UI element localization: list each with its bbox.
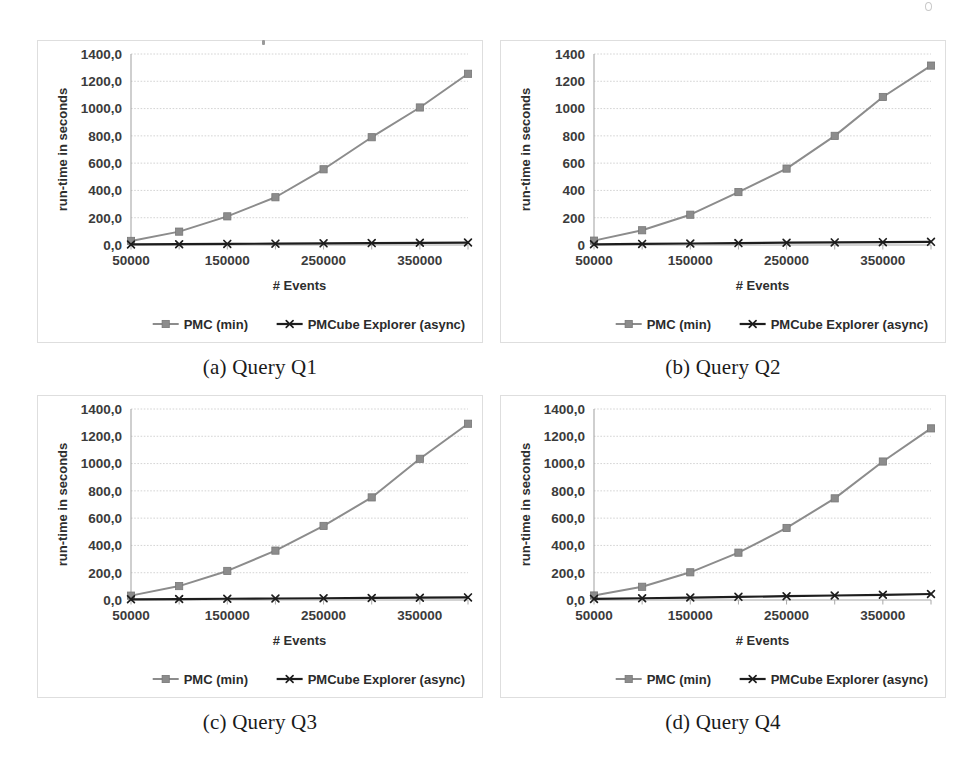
y-axis-tick-label: 800,0 <box>88 129 122 144</box>
chart-panel-b: 0200400600800100012001400500001500002500… <box>500 40 946 343</box>
series-marker-square <box>879 93 886 100</box>
figure-panel-b: 0200400600800100012001400500001500002500… <box>500 40 946 380</box>
y-axis-tick-label: 600,0 <box>88 511 122 526</box>
y-axis-tick-label: 1400,0 <box>544 402 585 417</box>
subcaption-b: (b) Query Q2 <box>500 355 946 380</box>
figure-grid: 0,0200,0400,0600,0800,01000,01200,01400,… <box>0 0 966 772</box>
scan-artifact-top-right <box>925 2 932 11</box>
series-marker-square <box>927 62 934 69</box>
series-line-pmc <box>131 74 468 241</box>
x-axis-title: # Events <box>273 278 326 293</box>
y-axis-tick-label: 1400 <box>555 47 585 62</box>
legend-label: PMC (min) <box>184 317 248 332</box>
series-marker-square <box>176 228 183 235</box>
figure-panel-a: 0,0200,0400,0600,0800,01000,01200,01400,… <box>37 40 483 380</box>
legend-label: PMCube Explorer (async) <box>308 317 466 332</box>
legend-item-pmcube: PMCube Explorer (async) <box>277 317 466 332</box>
scan-artifact-chart-a <box>262 40 265 45</box>
x-axis-tick-label: 150000 <box>205 608 250 623</box>
series-marker-square <box>368 494 375 501</box>
y-axis-tick-label: 0,0 <box>566 593 585 608</box>
series-marker-square <box>687 569 694 576</box>
x-axis-tick-label: 350000 <box>860 253 905 268</box>
figure-panel-c: 0,0200,0400,0600,0800,01000,01200,01400,… <box>37 395 483 735</box>
x-axis-tick-label: 150000 <box>668 608 713 623</box>
series-marker-square <box>272 547 279 554</box>
y-axis-title: run-time in seconds <box>55 443 70 567</box>
y-axis-tick-label: 1000,0 <box>81 101 122 116</box>
series-line-pmc <box>594 428 931 595</box>
y-axis-tick-label: 200,0 <box>551 566 585 581</box>
legend-item-pmc: PMC (min) <box>616 672 711 687</box>
x-axis-tick-label: 250000 <box>301 253 346 268</box>
y-axis-tick-label: 400 <box>562 183 585 198</box>
series-marker-square <box>416 455 423 462</box>
series-marker-square <box>831 495 838 502</box>
legend-marker-square <box>625 320 632 327</box>
legend-label: PMCube Explorer (async) <box>771 672 929 687</box>
y-axis-title: run-time in seconds <box>518 88 533 212</box>
x-axis-tick-label: 250000 <box>764 608 809 623</box>
y-axis-tick-label: 1000,0 <box>81 456 122 471</box>
series-line-pmc <box>131 424 468 596</box>
y-axis-tick-label: 1000 <box>555 101 585 116</box>
legend-item-pmc: PMC (min) <box>153 317 248 332</box>
series-marker-square <box>176 582 183 589</box>
series-marker-square <box>368 134 375 141</box>
y-axis-tick-label: 600 <box>562 156 585 171</box>
legend-label: PMC (min) <box>647 672 711 687</box>
x-axis-tick-label: 250000 <box>764 253 809 268</box>
y-axis-tick-label: 400,0 <box>551 538 585 553</box>
y-axis-tick-label: 400,0 <box>88 183 122 198</box>
series-marker-square <box>464 420 471 427</box>
y-axis-tick-label: 1400,0 <box>81 402 122 417</box>
figure-panel-d: 0,0200,0400,0600,0800,01000,01200,01400,… <box>500 395 946 735</box>
legend-item-pmc: PMC (min) <box>153 672 248 687</box>
chart-b-svg: 0200400600800100012001400500001500002500… <box>501 41 945 342</box>
series-marker-square <box>735 549 742 556</box>
x-axis-title: # Events <box>736 278 789 293</box>
series-marker-square <box>224 213 231 220</box>
x-axis-tick-label: 350000 <box>397 608 442 623</box>
y-axis-tick-label: 200,0 <box>88 211 122 226</box>
legend-item-pmc: PMC (min) <box>616 317 711 332</box>
series-marker-square <box>879 458 886 465</box>
legend-label: PMC (min) <box>184 672 248 687</box>
subcaption-d: (d) Query Q4 <box>500 710 946 735</box>
x-axis-tick-label: 150000 <box>668 253 713 268</box>
y-axis-tick-label: 400,0 <box>88 538 122 553</box>
legend-marker-square <box>162 320 169 327</box>
series-marker-square <box>320 166 327 173</box>
x-axis-tick-label: 350000 <box>860 608 905 623</box>
y-axis-tick-label: 800,0 <box>88 484 122 499</box>
legend-marker-square <box>625 675 632 682</box>
legend-item-pmcube: PMCube Explorer (async) <box>277 672 466 687</box>
series-marker-square <box>783 165 790 172</box>
chart-panel-a: 0,0200,0400,0600,0800,01000,01200,01400,… <box>37 40 483 343</box>
series-marker-square <box>639 583 646 590</box>
series-marker-square <box>831 132 838 139</box>
subcaption-a: (a) Query Q1 <box>37 355 483 380</box>
y-axis-tick-label: 0,0 <box>103 238 122 253</box>
legend-label: PMCube Explorer (async) <box>771 317 929 332</box>
legend-label: PMCube Explorer (async) <box>308 672 466 687</box>
legend-item-pmcube: PMCube Explorer (async) <box>740 672 929 687</box>
y-axis-tick-label: 200,0 <box>88 566 122 581</box>
y-axis-title: run-time in seconds <box>55 88 70 212</box>
x-axis-tick-label: 50000 <box>575 253 613 268</box>
x-axis-title: # Events <box>736 633 789 648</box>
y-axis-tick-label: 1400,0 <box>81 47 122 62</box>
series-marker-square <box>687 211 694 218</box>
chart-a-svg: 0,0200,0400,0600,0800,01000,01200,01400,… <box>38 41 482 342</box>
x-axis-title: # Events <box>273 633 326 648</box>
chart-panel-d: 0,0200,0400,0600,0800,01000,01200,01400,… <box>500 395 946 698</box>
x-axis-tick-label: 150000 <box>205 253 250 268</box>
series-marker-square <box>320 522 327 529</box>
series-marker-square <box>272 194 279 201</box>
series-marker-square <box>416 104 423 111</box>
series-marker-square <box>639 227 646 234</box>
x-axis-tick-label: 50000 <box>575 608 613 623</box>
chart-d-svg: 0,0200,0400,0600,0800,01000,01200,01400,… <box>501 396 945 697</box>
series-marker-square <box>927 425 934 432</box>
series-marker-square <box>783 524 790 531</box>
